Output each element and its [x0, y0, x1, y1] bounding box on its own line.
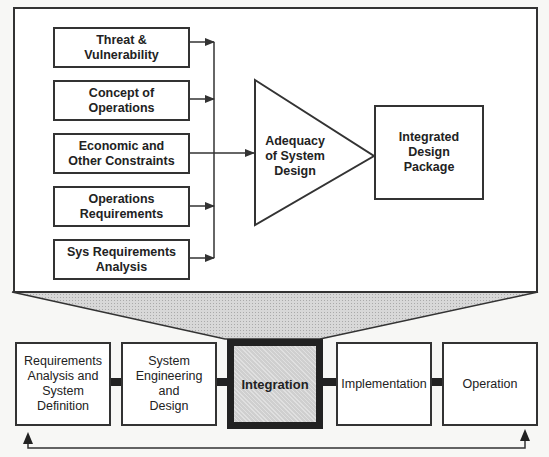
- input-threat-vulnerability: Threat & Vulnerability: [53, 27, 190, 68]
- phase-operation: Operation: [442, 342, 538, 426]
- input-sys-requirements-analysis: Sys Requirements Analysis: [53, 239, 190, 280]
- input-operations-requirements: Operations Requirements: [53, 186, 190, 227]
- input-economic-constraints: Economic and Other Constraints: [53, 133, 190, 174]
- zoom-funnel: [12, 292, 538, 339]
- input-concept-of-operations: Concept of Operations: [53, 80, 190, 121]
- adequacy-gate-label: Adequacy of System Design: [256, 134, 334, 179]
- feedback-loop-line: [28, 441, 525, 448]
- phase-integration: Integration: [227, 339, 323, 429]
- phase-system-engineering: System Engineering and Design: [121, 342, 217, 426]
- phase-implementation: Implementation: [336, 342, 432, 426]
- integrated-design-package: Integrated Design Package: [374, 105, 484, 200]
- phase-requirements-analysis: Requirements Analysis and System Definit…: [15, 342, 111, 426]
